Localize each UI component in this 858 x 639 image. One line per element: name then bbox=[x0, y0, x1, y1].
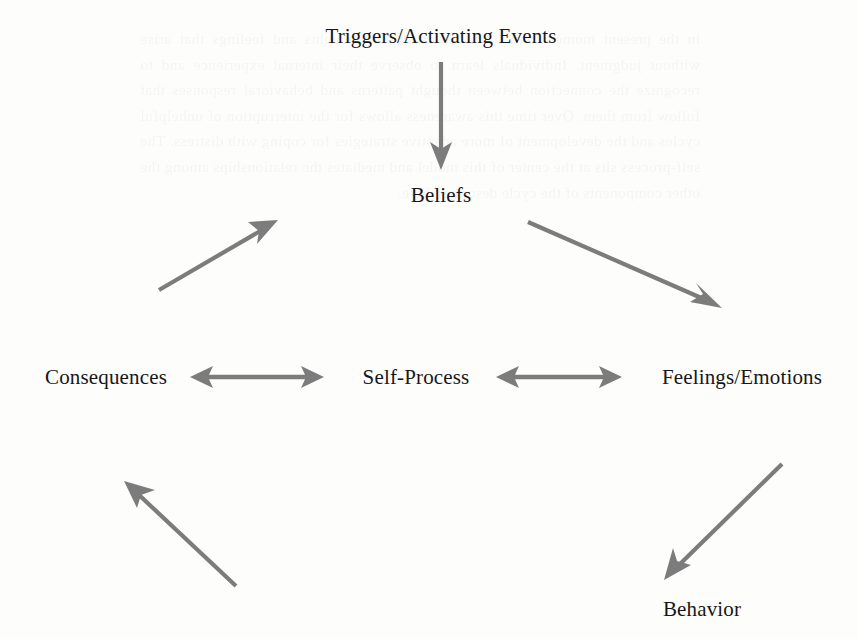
node-feelings-emotions: Feelings/Emotions bbox=[662, 364, 822, 390]
node-self-process: Self-Process bbox=[363, 364, 470, 390]
diagram-canvas: in the present moment and to be aware of… bbox=[0, 0, 858, 639]
node-triggers-activating-events: Triggers/Activating Events bbox=[325, 23, 556, 49]
arrow-selfprocess-feelings bbox=[496, 366, 622, 388]
arrow-triggers-to-beliefs bbox=[430, 62, 452, 170]
node-consequences: Consequences bbox=[45, 364, 167, 390]
arrow-consequences-selfprocess bbox=[190, 366, 324, 388]
arrow-feelings-to-behavior bbox=[664, 464, 782, 580]
arrow-behavior-to-consequences bbox=[124, 481, 236, 586]
background-bleed-paragraph: in the present moment and to be aware of… bbox=[140, 26, 700, 205]
node-beliefs: Beliefs bbox=[411, 182, 472, 208]
background-bleed-text: in the present moment and to be aware of… bbox=[0, 0, 858, 639]
arrow-beliefs-to-feelings bbox=[528, 222, 722, 308]
arrow-consequences-to-triggers bbox=[159, 220, 278, 290]
node-behavior: Behavior bbox=[663, 596, 741, 622]
arrow-layer bbox=[0, 0, 858, 639]
